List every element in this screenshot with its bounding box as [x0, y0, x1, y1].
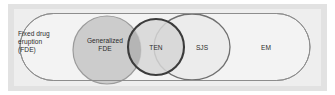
set-label-fixed-drug-eruption: Fixed drug eruption (FDE)	[18, 30, 70, 55]
set-label-sjs: SJS	[187, 44, 217, 52]
set-label-generalized-fde: Generalized FDE	[76, 37, 134, 53]
figure-container: Fixed drug eruption (FDE) Generalized FD…	[0, 0, 335, 95]
set-label-em: EM	[244, 44, 288, 52]
set-label-ten: TEN	[139, 44, 173, 52]
